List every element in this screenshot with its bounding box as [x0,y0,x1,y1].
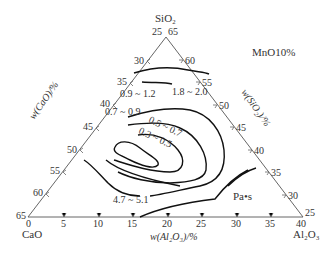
svg-text:35: 35 [265,218,275,229]
svg-text:1.8 ~ 2.0: 1.8 ~ 2.0 [172,86,207,97]
svg-text:4.7 ~ 5.1: 4.7 ~ 5.1 [113,194,148,205]
svg-text:0.7 ~ 0.9: 0.7 ~ 0.9 [105,106,140,117]
svg-text:60: 60 [33,187,43,198]
contour-mid [106,160,180,186]
svg-text:55: 55 [50,165,60,176]
vertex-right-val: 25 [305,207,315,218]
svg-text:45: 45 [83,121,93,132]
diagram-title: MnO10% [252,46,295,58]
right-tick-labels: 60 55 50 45 40 35 30 [185,55,298,201]
vertex-top-right-val: 65 [168,26,178,37]
svg-text:30: 30 [288,190,298,201]
svg-text:45: 45 [236,122,246,133]
vertex-left-val: 65 [16,210,26,221]
contour-right [228,168,256,186]
svg-text:30: 30 [231,218,241,229]
svg-text:50: 50 [219,100,229,111]
ternary-diagram: SiO₂ 25 65 65 0 CaO 25 40 Al₂O₃ 30 35 40… [0,0,334,256]
svg-text:60: 60 [185,55,195,66]
bottom-axis-ticks [62,213,273,217]
right-axis-ticks [179,60,286,198]
svg-text:5: 5 [61,218,66,229]
contour-0-9-1-2 [142,82,172,84]
vertex-right-label: Al₂O₃ [293,228,320,240]
contour-inner [114,142,158,167]
bottom-axis-label: w(Al₂O₃)/% [150,231,198,243]
unit-label: Pa•s [233,190,252,202]
svg-text:0.9 ~ 1.2: 0.9 ~ 1.2 [120,88,155,99]
svg-text:35: 35 [117,76,127,87]
svg-text:25: 25 [196,218,206,229]
svg-text:35: 35 [271,167,281,178]
vertex-top-left-val: 25 [152,26,162,37]
contour-4-7-5-1 [140,170,248,217]
left-axis-label: w(CaO)/% [27,79,62,121]
contour-1-8-2-0 [134,68,209,74]
vertex-top-label: SiO₂ [155,12,176,24]
contour-0-5-0-7 [118,123,206,183]
svg-text:15: 15 [127,218,137,229]
svg-text:30: 30 [134,55,144,66]
svg-text:50: 50 [67,144,77,155]
vertex-left-label: CaO [22,228,42,240]
bottom-tick-labels: 5 10 15 20 25 30 35 [61,218,275,229]
left-axis-ticks [46,59,150,197]
svg-text:20: 20 [162,218,172,229]
svg-text:40: 40 [254,145,264,156]
svg-text:10: 10 [93,218,103,229]
